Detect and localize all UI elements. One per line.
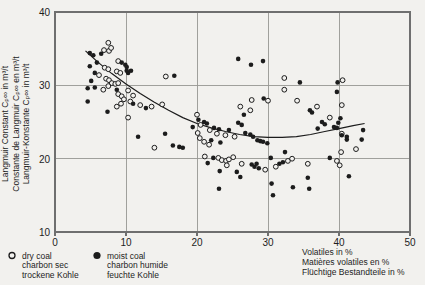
moist-coal-point — [209, 138, 214, 143]
moist-coal-point — [238, 175, 243, 180]
moist-coal-point — [338, 116, 343, 121]
moist-coal-point — [335, 126, 340, 131]
x-tick-label: 30 — [262, 237, 274, 248]
moist-coal-point — [335, 80, 340, 85]
dry-coal-point — [231, 155, 236, 160]
moist-coal-point — [190, 125, 195, 130]
moist-coal-point — [163, 131, 168, 136]
moist-coal-point — [91, 53, 96, 58]
dry-coal-point — [337, 163, 342, 168]
moist-coal-point — [242, 112, 247, 117]
dry-coal-point — [238, 104, 243, 109]
moist-coal-point — [235, 170, 240, 175]
open-circle-marker-icon — [9, 253, 15, 259]
moist-coal-point — [359, 137, 364, 142]
moist-coal-point — [261, 96, 266, 101]
y-tick-label: 40 — [39, 7, 51, 18]
dry-coal-point — [109, 46, 114, 51]
y-tick-label: 20 — [39, 154, 51, 165]
filled-circle-marker-icon — [93, 252, 100, 259]
dry-coal-point — [197, 136, 202, 141]
moist-coal-point — [205, 161, 210, 166]
dry-coal-point — [282, 76, 287, 81]
y-axis-label-line-de: Langmuir-Konstante Cₚ∞ in m³/t — [21, 63, 31, 184]
moist-coal-point — [88, 64, 93, 69]
moist-coal-point — [291, 185, 296, 190]
dry-coal-point — [122, 97, 127, 102]
dry-coal-point — [207, 142, 212, 147]
moist-coal-point — [298, 80, 303, 85]
dry-coal-point — [335, 159, 340, 164]
moist-coal-point — [261, 59, 266, 64]
dry-coal-point — [340, 78, 345, 83]
scatter-chart: 0102030405040302010 Langmuir Constant Cₚ… — [0, 0, 425, 285]
moist-coal-point — [345, 134, 350, 139]
legend-dry-line-fr: charbon sec — [22, 260, 69, 270]
moist-coal-point — [181, 145, 186, 150]
x-axis-label-line-fr: Matières volatiles en % — [302, 257, 390, 267]
moist-coal-point — [196, 118, 201, 123]
moist-coal-point — [218, 140, 223, 145]
moist-coal-point — [347, 174, 352, 179]
dry-coal-point — [106, 84, 111, 89]
dry-coal-point — [215, 131, 220, 136]
legend-dry-line-en: dry coal — [22, 251, 52, 261]
moist-coal-point — [212, 126, 217, 131]
x-axis-label-line-en: Volatiles in % — [302, 247, 353, 257]
moist-coal-point — [205, 121, 210, 126]
dry-coal-point — [195, 112, 200, 117]
moist-coal-point — [307, 186, 312, 191]
moist-coal-point — [251, 134, 256, 139]
moist-coal-point — [265, 141, 270, 146]
moist-coal-point — [131, 101, 136, 106]
moist-coal-point — [271, 193, 276, 198]
moist-coal-point — [217, 186, 222, 191]
dry-coal-point — [315, 104, 320, 109]
dry-coal-point — [149, 104, 154, 109]
y-tick-label: 30 — [39, 80, 51, 91]
moist-coal-point — [227, 128, 232, 133]
dry-coal-point — [101, 87, 106, 92]
dry-coal-point — [126, 88, 131, 93]
moist-coal-point — [323, 122, 328, 127]
y-axis-label-line-en: Langmuir Constant Cₚ∞ in m³/t — [0, 65, 10, 182]
y-tick-label: 10 — [39, 227, 51, 238]
y-axis-label-line-fr: Constante de Langmuir Cₚ∞ en m³/t — [11, 56, 21, 192]
legend-moist-line-fr: charbon humide — [107, 260, 168, 270]
moist-coal-point — [336, 120, 341, 125]
moist-coal-point — [315, 126, 320, 131]
moist-coal-point — [239, 123, 244, 128]
dry-coal-point — [106, 67, 111, 72]
moist-coal-point — [93, 85, 98, 90]
dry-coal-point — [202, 139, 207, 144]
legend-moist-line-de: feuchte Kohle — [107, 270, 159, 280]
dry-coal-point — [160, 102, 165, 107]
axis-ticks: 0102030405040302010 — [39, 7, 416, 248]
moist-coal-point — [261, 140, 266, 145]
dry-coal-points — [97, 40, 359, 172]
moist-coal-point — [85, 86, 90, 91]
dry-coal-point — [232, 134, 237, 139]
dry-coal-point — [152, 145, 157, 150]
dry-coal-point — [327, 115, 332, 120]
legend-item-moist-coal: moist coal charbon humide feuchte Kohle — [93, 251, 168, 280]
moist-coal-point — [171, 143, 176, 148]
legend-item-dry-coal: dry coal charbon sec trockene Kohle — [9, 251, 79, 280]
dry-coal-point — [224, 163, 229, 168]
langmuir-volatiles-figure: 0102030405040302010 Langmuir Constant Cₚ… — [0, 0, 425, 285]
dry-coal-point — [339, 150, 344, 155]
moist-coal-point — [136, 134, 141, 139]
legend-dry-line-de: trockene Kohle — [22, 270, 79, 280]
moist-coal-point — [340, 133, 345, 138]
dry-coal-point — [131, 93, 136, 98]
dry-coal-point — [263, 167, 268, 172]
dry-coal-point — [282, 87, 287, 92]
dry-coal-point — [295, 98, 300, 103]
moist-coal-point — [281, 160, 286, 165]
dry-coal-point — [249, 98, 254, 103]
dry-coal-point — [118, 71, 123, 76]
x-tick-label: 10 — [120, 237, 132, 248]
x-axis-label-line-de: Flüchtige Bestandteile in % — [302, 267, 405, 277]
moist-coal-points — [85, 51, 365, 198]
moist-coal-point — [335, 90, 340, 95]
